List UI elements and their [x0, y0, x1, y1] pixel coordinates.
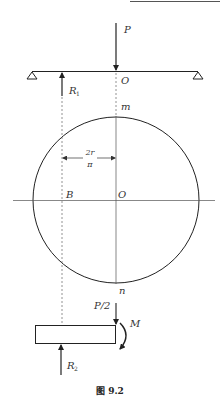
cut-segment — [36, 326, 116, 344]
point-b-label: B — [65, 189, 73, 200]
bottom-point-label: n — [119, 285, 125, 296]
reaction-1-subscript: 1 — [76, 90, 80, 97]
ring-beam-diagram: P R 1 O m 2r π B O n P/2 — [0, 0, 220, 411]
load-label: P — [123, 24, 131, 35]
half-load-label: P/2 — [93, 300, 110, 311]
moment-arrow — [120, 323, 126, 349]
reaction-2-subscript: 2 — [74, 365, 78, 372]
circle-center-label: O — [118, 189, 126, 200]
dimension-numerator: 2r — [85, 148, 96, 157]
beam-center-label: O — [121, 75, 129, 86]
left-support-icon — [27, 72, 37, 79]
dimension-denominator: π — [86, 160, 93, 169]
right-support-icon — [193, 72, 203, 79]
figure-caption: 图 9.2 — [0, 384, 220, 397]
top-point-label: m — [121, 101, 130, 112]
moment-label: M — [129, 318, 141, 329]
